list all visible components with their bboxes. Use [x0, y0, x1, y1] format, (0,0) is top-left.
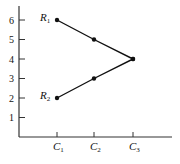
y-tick-label: 6 [9, 15, 14, 26]
y-tick-label: 3 [9, 73, 14, 84]
line-chart: 123456 C1C2C3 R1R2 [0, 0, 180, 164]
series-lines: R1R2 [39, 11, 135, 103]
series-r1: R1 [39, 11, 135, 61]
y-tick-label: 4 [9, 54, 14, 65]
x-tick-label: C1 [53, 140, 64, 154]
series-label: R2 [39, 89, 51, 103]
data-point-marker [55, 96, 59, 100]
y-tick-label: 2 [9, 93, 14, 104]
chart-canvas: 123456 C1C2C3 R1R2 [0, 0, 180, 164]
series-label: R1 [39, 11, 51, 25]
data-point-marker [92, 76, 96, 80]
y-axis-ticks: 123456 [9, 15, 25, 124]
x-tick-label: C2 [90, 140, 101, 154]
data-point-marker [55, 18, 59, 22]
axes [19, 6, 172, 137]
y-tick-label: 1 [9, 112, 14, 123]
series-r2: R2 [39, 57, 135, 103]
data-point-marker [131, 57, 135, 61]
data-point-marker [92, 37, 96, 41]
x-axis-ticks: C1C2C3 [53, 132, 140, 154]
y-tick-label: 5 [9, 34, 14, 45]
x-tick-label: C3 [129, 140, 140, 154]
